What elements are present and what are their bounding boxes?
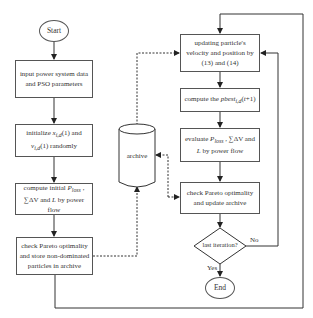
update-velocity-box: updating particle's velocity and positio…	[180, 34, 260, 72]
input-data-box: input power system data and PSO paramete…	[15, 60, 93, 98]
compute-initial-text: compute initial Ploss , ∑ΔV and L by pow…	[18, 183, 90, 215]
start-terminal: Start	[39, 20, 69, 42]
initialize-text: initialize xi,d(1) and vi,d(1) randomly	[18, 128, 90, 153]
end-terminal: End	[205, 277, 235, 299]
check-store-box: check Pareto optimality and store non-do…	[16, 237, 93, 275]
yes-label: Yes	[207, 264, 217, 272]
compute-pbest-text: compute the pbesti,d(t+1)	[184, 94, 255, 106]
evaluate-box: evaluate Ploss , ∑ΔV and L by power flow	[180, 128, 260, 162]
check-update-box: check Pareto optimality and update archi…	[180, 182, 260, 214]
decision-label: last iteration?	[194, 241, 246, 248]
compute-pbest-box: compute the pbesti,d(t+1)	[180, 88, 260, 112]
no-label: No	[250, 236, 259, 244]
compute-initial-box: compute initial Ploss , ∑ΔV and L by pow…	[15, 183, 93, 215]
archive-label: archive	[119, 152, 155, 160]
initialize-box: initialize xi,d(1) and vi,d(1) randomly	[15, 124, 93, 157]
evaluate-text: evaluate Ploss , ∑ΔV and L by power flow	[183, 134, 257, 156]
